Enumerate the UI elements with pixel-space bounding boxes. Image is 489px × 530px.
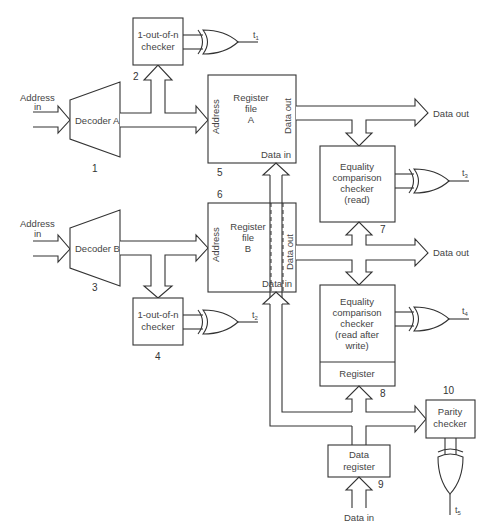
svg-text:2: 2 xyxy=(133,71,139,82)
data-register-bus xyxy=(346,386,426,445)
svg-text:(read after: (read after xyxy=(335,329,379,340)
xor-gate-t5: t5 xyxy=(438,438,463,516)
xor-gate-t2: t2 xyxy=(183,310,259,334)
checker-b: 1-out-of-n checker 4 xyxy=(133,298,183,362)
svg-text:comparison: comparison xyxy=(332,307,381,318)
svg-text:Data: Data xyxy=(349,449,370,460)
decoder-b: Decoder B 3 xyxy=(70,210,120,293)
svg-text:B: B xyxy=(245,243,251,254)
svg-text:checker: checker xyxy=(141,321,174,332)
svg-text:Address: Address xyxy=(210,99,221,134)
svg-text:6: 6 xyxy=(217,189,223,200)
svg-text:file: file xyxy=(245,103,257,114)
svg-text:register: register xyxy=(343,461,375,472)
t2-label: t2 xyxy=(252,310,259,321)
decoder-b-bus xyxy=(120,235,208,298)
svg-text:checker: checker xyxy=(141,41,174,52)
address-in-a-input: Address in xyxy=(20,92,70,133)
t1-label: t1 xyxy=(253,30,260,41)
svg-text:Data out: Data out xyxy=(282,98,293,134)
svg-text:Data out: Data out xyxy=(284,234,295,270)
data-in-arrow xyxy=(346,477,372,508)
register-file-a: Register file A Address Data out Data in… xyxy=(208,75,296,178)
svg-text:Equality: Equality xyxy=(340,161,374,172)
svg-text:Data in: Data in xyxy=(262,278,292,289)
register-sublabel: Register xyxy=(339,368,374,379)
t5-label: t5 xyxy=(455,505,462,516)
svg-text:file: file xyxy=(242,232,254,243)
equality-checker-raw: Equality comparison checker (read after … xyxy=(320,285,395,399)
data-in-b-arrowhead xyxy=(263,292,289,304)
svg-text:in: in xyxy=(34,101,41,112)
t3-label: t3 xyxy=(462,168,469,179)
address-in-b-input: Address in xyxy=(20,218,70,262)
svg-text:Address: Address xyxy=(210,227,221,262)
svg-text:10: 10 xyxy=(443,385,455,396)
data-out-a-label: Data out xyxy=(433,108,469,119)
svg-text:comparison: comparison xyxy=(332,172,381,183)
data-in-label: Data in xyxy=(344,512,374,523)
svg-text:1-out-of-n: 1-out-of-n xyxy=(137,29,178,40)
data-in-a-arrowhead xyxy=(263,163,289,175)
svg-text:Decoder A: Decoder A xyxy=(75,115,120,126)
data-out-b-label: Data out xyxy=(433,247,469,258)
svg-text:3: 3 xyxy=(92,282,98,293)
svg-text:checker: checker xyxy=(340,183,373,194)
svg-text:7: 7 xyxy=(380,224,386,235)
svg-text:1-out-of-n: 1-out-of-n xyxy=(137,309,178,320)
svg-text:5: 5 xyxy=(217,167,223,178)
xor-gate-t4: t4 xyxy=(395,306,469,331)
xor-gate-t3: t3 xyxy=(395,168,469,193)
svg-text:Register: Register xyxy=(230,221,265,232)
svg-text:(read): (read) xyxy=(344,194,369,205)
address-b-arrow xyxy=(33,235,70,262)
svg-text:in: in xyxy=(34,228,41,239)
svg-text:write): write) xyxy=(344,340,368,351)
svg-text:Decoder B: Decoder B xyxy=(75,243,120,254)
xor-gate-t1: t1 xyxy=(183,30,260,54)
svg-text:9: 9 xyxy=(378,479,384,490)
svg-text:A: A xyxy=(248,114,255,125)
svg-text:Register: Register xyxy=(233,92,268,103)
diagram-canvas: Address in Decoder A 1 1-out-of-n checke… xyxy=(0,0,489,530)
svg-text:checker: checker xyxy=(433,418,466,429)
svg-text:1: 1 xyxy=(92,163,98,174)
data-out-b-bus xyxy=(296,222,428,285)
svg-text:4: 4 xyxy=(155,351,161,362)
t4-label: t4 xyxy=(462,306,469,317)
data-out-a-bus xyxy=(296,99,428,146)
svg-text:Parity: Parity xyxy=(438,406,463,417)
svg-text:Equality: Equality xyxy=(340,296,374,307)
svg-text:8: 8 xyxy=(380,388,386,399)
parity-checker: Parity checker 10 xyxy=(426,385,475,438)
svg-text:checker: checker xyxy=(340,318,373,329)
svg-text:Data in: Data in xyxy=(261,149,291,160)
decoder-a: Decoder A 1 xyxy=(70,82,120,174)
equality-checker-read: Equality comparison checker (read) 7 xyxy=(320,146,395,235)
